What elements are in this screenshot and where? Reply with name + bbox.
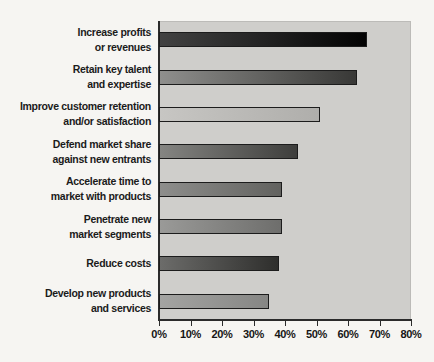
x-axis-tick-label: 60% <box>337 328 358 340</box>
bar-track <box>159 245 411 282</box>
bar <box>159 70 357 85</box>
x-axis-tick-label: 80% <box>400 328 421 340</box>
chart-row: Defend market share against new entrants <box>0 133 411 170</box>
x-axis-tick-mark <box>159 320 160 326</box>
category-label: Retain key talent and expertise <box>0 62 159 92</box>
bar-track <box>159 208 411 245</box>
x-axis-tick-mark <box>411 320 412 326</box>
category-label: Develop new products and services <box>0 286 159 316</box>
bar-track <box>159 58 411 95</box>
chart-row: Develop new products and services <box>0 283 411 320</box>
chart-row: Retain key talent and expertise <box>0 58 411 95</box>
bar <box>159 32 367 47</box>
x-axis-tick-mark <box>222 320 223 326</box>
x-axis-ticks: 0%10%20%30%40%50%60%70%80% <box>159 320 411 352</box>
x-axis-tick-mark <box>348 320 349 326</box>
bar-track <box>159 96 411 133</box>
bar <box>159 107 320 122</box>
x-axis-tick-label: 70% <box>369 328 390 340</box>
bar-track <box>159 21 411 58</box>
horizontal-bar-chart: Increase profits or revenuesRetain key t… <box>0 0 434 362</box>
x-axis-tick-mark <box>254 320 255 326</box>
x-axis-tick-mark <box>285 320 286 326</box>
bar-track <box>159 283 411 320</box>
chart-row: Reduce costs <box>0 245 411 282</box>
x-axis-tick-label: 20% <box>211 328 232 340</box>
category-label: Accelerate time to market with products <box>0 174 159 204</box>
x-axis-tick-label: 10% <box>180 328 201 340</box>
x-axis-tick-label: 0% <box>151 328 166 340</box>
chart-row: Accelerate time to market with products <box>0 171 411 208</box>
chart-row: Penetrate new market segments <box>0 208 411 245</box>
x-axis-tick-label: 30% <box>243 328 264 340</box>
bar <box>159 182 282 197</box>
bar-track <box>159 133 411 170</box>
category-label: Improve customer retention and/or satisf… <box>0 99 159 129</box>
category-label: Reduce costs <box>0 256 159 271</box>
chart-row: Increase profits or revenues <box>0 21 411 58</box>
x-axis-tick-label: 50% <box>306 328 327 340</box>
category-label: Penetrate new market segments <box>0 212 159 242</box>
x-axis-tick-mark <box>191 320 192 326</box>
bar <box>159 294 269 309</box>
bar <box>159 256 279 271</box>
bar <box>159 144 298 159</box>
chart-row: Improve customer retention and/or satisf… <box>0 96 411 133</box>
x-axis-tick-mark <box>380 320 381 326</box>
category-label: Increase profits or revenues <box>0 25 159 55</box>
category-label: Defend market share against new entrants <box>0 137 159 167</box>
bar <box>159 219 282 234</box>
x-axis-tick-mark <box>317 320 318 326</box>
bar-track <box>159 171 411 208</box>
chart-rows: Increase profits or revenuesRetain key t… <box>0 21 411 320</box>
x-axis-tick-label: 40% <box>274 328 295 340</box>
